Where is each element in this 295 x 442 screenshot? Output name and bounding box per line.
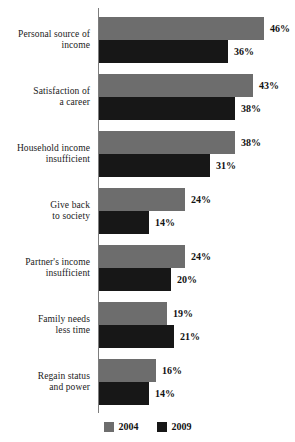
bar-2004 [99, 302, 167, 325]
category-label: Regain statusand power [0, 371, 90, 394]
bar-value-label: 36% [234, 40, 254, 63]
bar-2009 [99, 382, 149, 405]
bar-2004 [99, 245, 185, 268]
bar-value-label: 20% [177, 268, 197, 291]
legend-label: 2009 [172, 421, 192, 432]
category-label-line: income [0, 40, 90, 52]
category-label-line: insufficient [0, 268, 90, 280]
category-label-line: Household income [0, 143, 90, 155]
bar-value-label: 43% [259, 74, 279, 97]
category-label-line: a career [0, 97, 90, 109]
bar-value-label: 38% [241, 97, 261, 120]
legend-item-2009: 2009 [157, 421, 192, 432]
category-label: Family needsless time [0, 314, 90, 337]
bar-value-label: 16% [162, 359, 182, 382]
category-label: Satisfaction ofa career [0, 86, 90, 109]
category-label: Personal source ofincome [0, 29, 90, 52]
category-label-line: Give back [0, 200, 90, 212]
bar-2009 [99, 154, 210, 177]
legend-swatch-icon [157, 422, 167, 432]
category-label-line: Satisfaction of [0, 86, 90, 98]
bar-value-label: 38% [241, 131, 261, 154]
legend-swatch-icon [104, 422, 114, 432]
category-label-line: to society [0, 211, 90, 223]
category-label: Household incomeinsufficient [0, 143, 90, 166]
bar-2009 [99, 268, 171, 291]
bar-value-label: 21% [180, 325, 200, 348]
bar-group: Give backto society24%14% [0, 188, 295, 234]
category-label: Give backto society [0, 200, 90, 223]
bar-value-label: 19% [173, 302, 193, 325]
category-label: Partner's incomeinsufficient [0, 257, 90, 280]
bar-2004 [99, 359, 156, 382]
bar-2009 [99, 325, 174, 348]
bar-value-label: 14% [155, 382, 175, 405]
bar-group: Satisfaction ofa career43%38% [0, 74, 295, 120]
plot-area: Personal source ofincome46%36%Satisfacti… [0, 0, 295, 415]
bar-2004 [99, 74, 253, 97]
category-label-line: Family needs [0, 314, 90, 326]
bar-2009 [99, 97, 235, 120]
category-label-line: insufficient [0, 154, 90, 166]
bar-2004 [99, 131, 235, 154]
bar-2004 [99, 188, 185, 211]
bar-group: Household incomeinsufficient38%31% [0, 131, 295, 177]
category-label-line: and power [0, 382, 90, 394]
horizontal-bar-chart: Personal source ofincome46%36%Satisfacti… [0, 0, 295, 442]
bar-group: Regain statusand power16%14% [0, 359, 295, 405]
bar-value-label: 31% [216, 154, 236, 177]
bar-2009 [99, 211, 149, 234]
bar-group: Partner's incomeinsufficient24%20% [0, 245, 295, 291]
bar-group: Family needsless time19%21% [0, 302, 295, 348]
category-label-line: Personal source of [0, 29, 90, 41]
bar-2009 [99, 40, 228, 63]
chart-legend: 20042009 [0, 421, 295, 432]
bar-value-label: 46% [270, 17, 290, 40]
bar-value-label: 24% [191, 188, 211, 211]
bar-value-label: 24% [191, 245, 211, 268]
category-label-line: less time [0, 325, 90, 337]
category-label-line: Partner's income [0, 257, 90, 269]
bar-2004 [99, 17, 264, 40]
bar-group: Personal source ofincome46%36% [0, 17, 295, 63]
legend-label: 2004 [119, 421, 139, 432]
bar-value-label: 14% [155, 211, 175, 234]
legend-item-2004: 2004 [104, 421, 139, 432]
category-label-line: Regain status [0, 371, 90, 383]
